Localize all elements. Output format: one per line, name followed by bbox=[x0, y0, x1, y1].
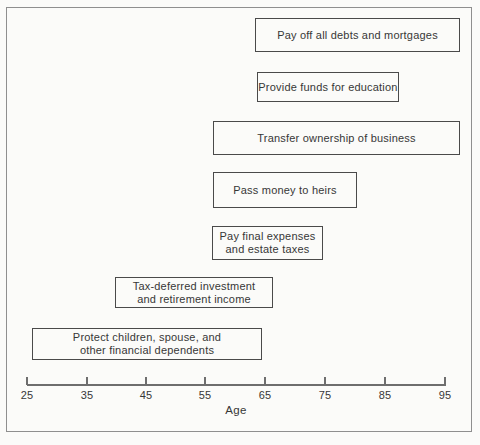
age-axis-title: Age bbox=[225, 404, 246, 416]
axis-tick-label: 55 bbox=[199, 389, 212, 401]
axis-tick-label: 35 bbox=[81, 389, 94, 401]
need-box-label: Pay final expenses bbox=[220, 230, 316, 243]
axis-tick-label: 95 bbox=[439, 389, 452, 401]
axis-tick bbox=[324, 377, 326, 385]
need-box-tax-deferred-investment: Tax-deferred investment and retirement i… bbox=[115, 277, 273, 308]
axis-tick-label: 45 bbox=[140, 389, 153, 401]
need-box-education-funds: Provide funds for education bbox=[257, 72, 399, 102]
need-box-protect-dependents: Protect children, spouse, and other fina… bbox=[32, 328, 262, 360]
axis-tick bbox=[204, 377, 206, 385]
life-insurance-needs-timeline-chart: Pay off all debts and mortgages Provide … bbox=[0, 0, 480, 445]
axis-tick bbox=[264, 377, 266, 385]
axis-tick-label: 25 bbox=[21, 389, 34, 401]
need-box-label: Pay off all debts and mortgages bbox=[277, 29, 438, 42]
axis-tick bbox=[145, 377, 147, 385]
need-box-pass-money-heirs: Pass money to heirs bbox=[213, 172, 357, 208]
axis-tick bbox=[26, 377, 28, 385]
need-box-label: Tax-deferred investment bbox=[133, 280, 256, 293]
need-box-label: and estate taxes bbox=[226, 243, 310, 256]
axis-tick-label: 65 bbox=[259, 389, 272, 401]
axis-tick-label: 85 bbox=[379, 389, 392, 401]
axis-tick bbox=[86, 377, 88, 385]
need-box-label: other financial dependents bbox=[80, 344, 214, 357]
axis-tick bbox=[384, 377, 386, 385]
axis-tick bbox=[444, 377, 446, 385]
need-box-label: and retirement income bbox=[137, 293, 251, 306]
need-box-label: Transfer ownership of business bbox=[257, 132, 415, 145]
need-box-label: Protect children, spouse, and bbox=[73, 331, 221, 344]
axis-tick-label: 75 bbox=[319, 389, 332, 401]
need-box-transfer-business: Transfer ownership of business bbox=[213, 121, 460, 155]
chart-frame bbox=[6, 7, 472, 432]
need-box-label: Pass money to heirs bbox=[233, 184, 336, 197]
need-box-label: Provide funds for education bbox=[258, 81, 397, 94]
need-box-pay-off-debts: Pay off all debts and mortgages bbox=[255, 18, 460, 52]
need-box-final-expenses: Pay final expenses and estate taxes bbox=[212, 226, 323, 260]
